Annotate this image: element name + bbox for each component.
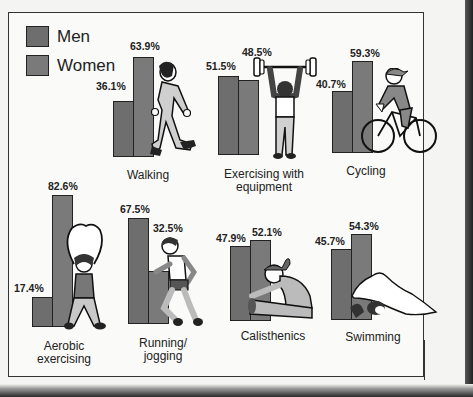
swimmer-icon xyxy=(350,268,440,322)
bar-men-aerobic xyxy=(32,297,53,327)
value-label-men-equipment: 51.5% xyxy=(206,60,236,72)
bar-men-equipment xyxy=(218,76,239,155)
value-label-men-calisthenics: 47.9% xyxy=(216,232,246,244)
legend-swatch-women xyxy=(26,55,49,76)
value-label-men-running: 67.5% xyxy=(120,203,150,215)
runner-icon xyxy=(150,232,210,332)
walking-person-icon xyxy=(150,60,200,160)
category-label-cycling: Cycling xyxy=(311,165,421,178)
weightlifter-icon xyxy=(250,55,320,160)
value-label-men-aerobic: 17.4% xyxy=(14,282,44,294)
legend-label-women: Women xyxy=(57,56,115,76)
bar-men-swimming xyxy=(331,249,352,320)
value-label-women-calisthenics: 52.1% xyxy=(252,226,282,238)
legend-item-men: Men xyxy=(26,26,90,47)
category-label-aerobic: Aerobic exercising xyxy=(9,340,119,366)
page-edge xyxy=(465,0,473,397)
legend-label-men: Men xyxy=(57,27,90,47)
bar-men-cycling xyxy=(332,91,353,153)
value-label-men-walking: 36.1% xyxy=(96,80,126,92)
legend-swatch-men xyxy=(26,26,49,47)
frame-notch xyxy=(424,340,429,380)
bar-men-walking xyxy=(113,101,134,157)
aerobics-person-icon xyxy=(60,222,110,332)
category-label-calisthenics: Calisthenics xyxy=(218,330,328,343)
category-label-running: Running/ jogging xyxy=(108,337,218,363)
category-label-equipment: Exercising with equipment xyxy=(209,168,319,194)
value-label-women-cycling: 59.3% xyxy=(350,47,380,59)
value-label-men-swimming: 45.7% xyxy=(315,235,345,247)
category-label-swimming: Swimming xyxy=(318,331,428,344)
bar-men-running xyxy=(128,218,149,324)
value-label-women-aerobic: 82.6% xyxy=(48,180,78,192)
value-label-men-cycling: 40.7% xyxy=(316,78,346,90)
category-label-walking: Walking xyxy=(93,169,203,182)
cyclist-icon xyxy=(360,68,440,160)
value-label-women-walking: 63.9% xyxy=(130,40,160,52)
page-edge xyxy=(0,384,473,397)
stretching-person-icon xyxy=(246,256,318,324)
legend-item-women: Women xyxy=(26,55,115,76)
value-label-women-swimming: 54.3% xyxy=(349,220,379,232)
